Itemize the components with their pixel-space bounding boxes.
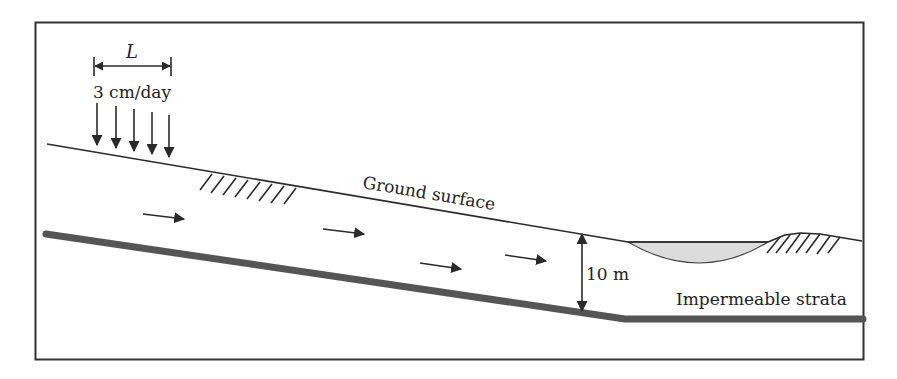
thickness-label: 10 m bbox=[586, 264, 629, 284]
impermeable-strata-label: Impermeable strata bbox=[676, 289, 847, 309]
flow-arrow-icon bbox=[420, 263, 461, 269]
recharge-rate-label: 3 cm/day bbox=[93, 82, 172, 102]
flow-arrow-icon bbox=[323, 229, 364, 234]
flow-arrows bbox=[143, 214, 546, 269]
flow-arrow-icon bbox=[505, 255, 546, 261]
recharge-arrows bbox=[97, 103, 169, 157]
flow-arrow-icon bbox=[143, 214, 184, 219]
ground-hatching-right bbox=[767, 234, 840, 254]
aquifer-diagram: L 3 cm/day Ground surface 10 m Impermeab… bbox=[0, 0, 897, 379]
recharge-length-label: L bbox=[125, 41, 138, 62]
pond bbox=[628, 242, 768, 263]
